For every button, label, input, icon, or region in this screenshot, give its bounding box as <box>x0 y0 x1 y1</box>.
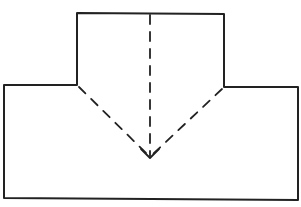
fold-diagram <box>0 0 301 207</box>
fold-line-left <box>79 87 147 154</box>
diagram-canvas <box>0 0 301 207</box>
fold-line-right <box>153 89 222 154</box>
t-shape-outline <box>4 13 298 200</box>
